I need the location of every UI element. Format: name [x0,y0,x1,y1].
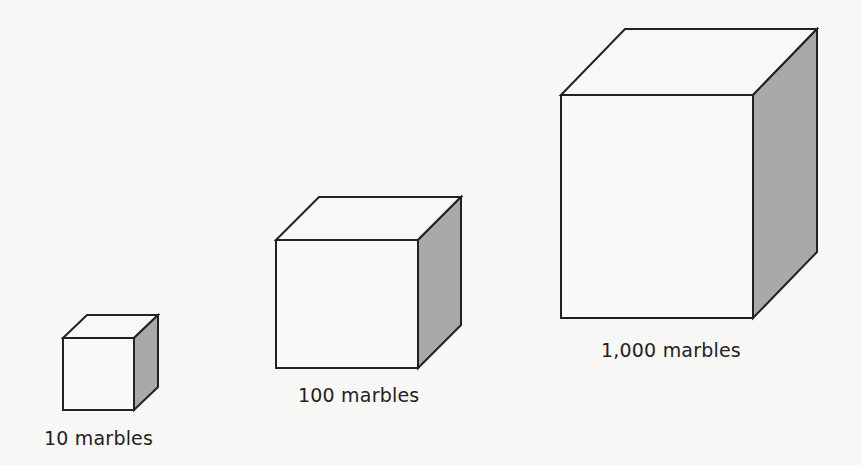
cube-100-marbles [276,197,461,368]
cube-front-face [276,240,418,368]
cube-10-marbles [63,315,158,410]
cube-front-face [561,95,753,318]
cube-front-face [63,338,134,410]
label-100-marbles: 100 marbles [298,384,419,406]
diagram-canvas [0,0,862,465]
label-1000-marbles: 1,000 marbles [601,339,741,361]
cube-1000-marbles [561,29,817,318]
label-10-marbles: 10 marbles [44,427,153,449]
